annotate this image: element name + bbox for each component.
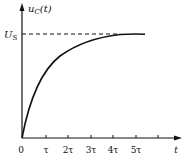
- svg-text:3τ: 3τ: [86, 145, 97, 155]
- svg-text:4τ: 4τ: [108, 145, 119, 155]
- svg-text:τ: τ: [44, 145, 49, 155]
- y-axis-label: uC(t): [28, 3, 52, 16]
- y-axis-arrow-icon: [20, 3, 25, 11]
- x-axis-arrow-icon: [174, 136, 182, 141]
- svg-text:2τ: 2τ: [63, 145, 74, 155]
- svg-text:0: 0: [18, 145, 24, 155]
- y-tick-us: US: [4, 29, 17, 42]
- charging-curve: [22, 34, 145, 138]
- x-axis-label: t: [174, 145, 178, 155]
- charging-curve-chart: uC(t) US 0 τ 2τ 3τ 4τ 5τ t: [0, 0, 186, 163]
- x-tick-labels: 0 τ 2τ 3τ 4τ 5τ: [18, 145, 141, 155]
- svg-text:5τ: 5τ: [131, 145, 142, 155]
